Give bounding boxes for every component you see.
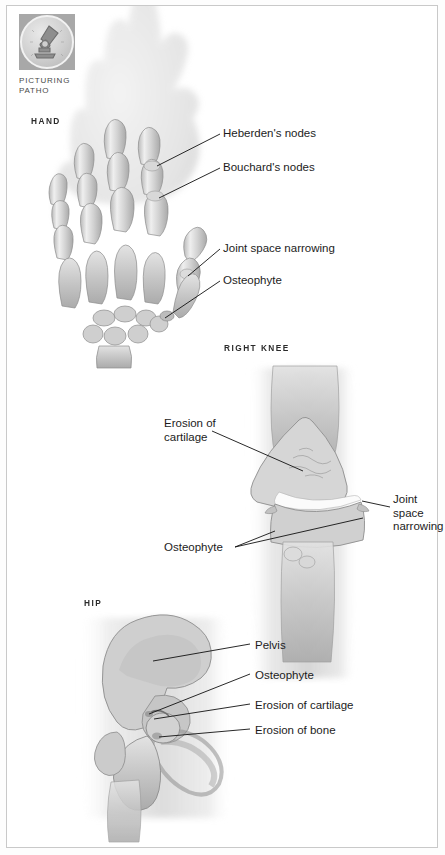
label-knee-osteophyte: Osteophyte (164, 541, 223, 555)
logo-caption-line1: PICTURING (19, 76, 89, 86)
section-heading-hip: HIP (84, 598, 102, 608)
hip-xray-illustration (78, 615, 250, 842)
label-knee-erosion-of-cartilage: Erosion of cartilage (164, 417, 216, 444)
microscope-icon (19, 14, 75, 70)
label-hip-pelvis: Pelvis (255, 639, 286, 653)
page-frame: PICTURING PATHO HAND RIGHT KNEE HIP (6, 5, 438, 848)
label-bouchards-nodes: Bouchard's nodes (223, 161, 315, 175)
label-knee-joint-space-narrowing: Joint space narrowing (393, 493, 444, 534)
label-hip-osteophyte: Osteophyte (255, 669, 314, 683)
label-hip-erosion-of-bone: Erosion of bone (255, 724, 336, 738)
label-hip-erosion-of-cartilage: Erosion of cartilage (255, 699, 353, 713)
logo-caption-line2: PATHO (19, 86, 89, 96)
label-hand-osteophyte: Osteophyte (223, 274, 282, 288)
section-heading-knee: RIGHT KNEE (224, 343, 290, 353)
picturing-patho-logo (19, 14, 75, 70)
section-heading-hand: HAND (31, 116, 61, 126)
knee-xray-illustration (212, 366, 390, 678)
logo-caption: PICTURING PATHO (19, 76, 89, 96)
label-hand-joint-space-narrowing: Joint space narrowing (223, 242, 335, 256)
label-heberdens-nodes: Heberden's nodes (223, 127, 316, 141)
